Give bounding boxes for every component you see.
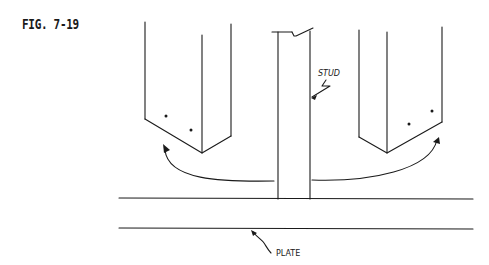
plate-label: PLATE	[276, 249, 300, 258]
nail-hole	[190, 129, 193, 132]
right-post	[359, 27, 442, 153]
arrowhead-icon	[433, 137, 440, 144]
nail-hole	[408, 123, 411, 126]
framing-diagram: STUD PLATE	[0, 0, 489, 265]
stud-leader	[312, 80, 330, 97]
left-post	[145, 22, 231, 153]
stud-label: STUD	[318, 69, 340, 78]
left-curved-arrow	[165, 150, 274, 181]
arrowhead-icon	[163, 144, 170, 153]
stud	[272, 28, 313, 199]
plate-leader	[253, 232, 271, 253]
plate	[119, 198, 473, 229]
nail-hole	[165, 115, 168, 118]
nail-hole	[431, 110, 434, 113]
